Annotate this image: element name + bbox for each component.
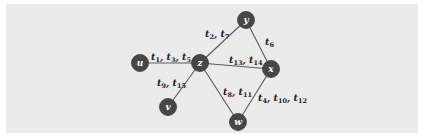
node-label: z <box>196 58 203 68</box>
node-v: v <box>160 99 177 116</box>
edge-label-z-w: t8, t11 <box>223 86 252 99</box>
node-y: y <box>238 12 255 29</box>
edge-label-u-z: t1, t3, t5 <box>151 51 191 64</box>
edge-label-x-w: t4, t10, t12 <box>258 92 307 105</box>
node-label: w <box>234 117 242 127</box>
edge-label-y-x: t6 <box>265 36 274 49</box>
temporal-graph: t1, t3, t5 t2, t7 t6 t13, t14 t9, t15 t8… <box>0 0 423 140</box>
node-label: v <box>165 102 171 112</box>
edge-label-z-x: t13, t14 <box>229 54 263 67</box>
node-x: x <box>263 61 280 78</box>
edge-z-y <box>200 20 246 63</box>
node-label: y <box>242 15 249 25</box>
edge-labels-layer: t1, t3, t5 t2, t7 t6 t13, t14 t9, t15 t8… <box>151 28 307 105</box>
node-u: u <box>132 55 149 72</box>
node-w: w <box>230 114 247 131</box>
node-z: z <box>192 55 209 72</box>
node-label: u <box>137 58 144 68</box>
node-label: x <box>267 64 274 74</box>
edge-label-z-v: t9, t15 <box>157 77 186 90</box>
edge-label-z-y: t2, t7 <box>205 28 229 41</box>
